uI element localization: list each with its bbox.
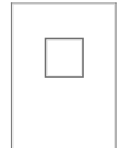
drawing-canvas [0, 0, 124, 148]
canvas-background [0, 0, 124, 148]
line-drawing-figure [0, 0, 124, 148]
